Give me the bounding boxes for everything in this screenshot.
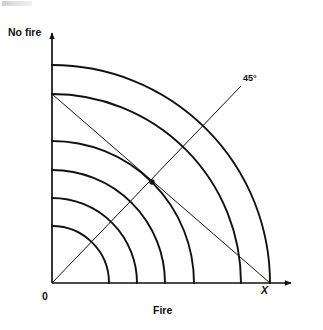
point-x-label: X — [261, 285, 268, 296]
figure-container: No fire Fire 0 X 45° — [0, 0, 323, 330]
x-axis-label: Fire — [153, 305, 172, 316]
tangency-point-dot — [149, 179, 154, 184]
quarter-circle-arcs-group — [52, 65, 270, 283]
y-axis-label: No fire — [8, 27, 41, 38]
arc-curve-5 — [52, 94, 241, 283]
origin-label: 0 — [42, 291, 48, 302]
forty-five-degree-label: 45° — [243, 74, 257, 83]
arc-curve-4 — [52, 141, 194, 283]
diagram-canvas — [0, 0, 323, 330]
